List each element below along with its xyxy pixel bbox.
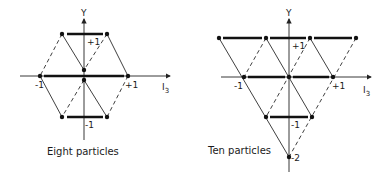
u-spin-line: [310, 38, 333, 77]
u-spin-line: [84, 80, 107, 117]
particle-point: [60, 115, 64, 119]
particle-point: [82, 78, 86, 82]
particle-point: [38, 74, 42, 78]
u-spin-line: [107, 34, 128, 76]
i3-plus-label: +1: [332, 81, 345, 91]
i3-plus-label: +1: [125, 80, 138, 90]
particle-point: [331, 75, 335, 79]
y-plus-label: +1: [87, 37, 100, 47]
u-spin-line: [219, 38, 289, 157]
weight-diagrams: Y +1 -1 -1 +1 I3 Eight particles: [0, 0, 391, 179]
y-axis-label: Y: [285, 8, 292, 18]
y-minus-label: -1: [291, 120, 300, 130]
decuplet-diagram: Y +1 -1 -2 -1 +1 I3 Ten particles: [207, 8, 371, 172]
particle-point: [287, 75, 291, 79]
v-spin-line: [40, 34, 62, 76]
v-spin-line: [62, 80, 84, 117]
particle-point: [105, 115, 109, 119]
y-plus-label: +1: [292, 41, 305, 51]
octet-diagram: Y +1 -1 -1 +1 I3 Eight particles: [20, 8, 170, 157]
i3-minus-label: -1: [35, 80, 44, 90]
octet-caption: Eight particles: [47, 146, 119, 157]
i3-axis-label: I3: [162, 82, 169, 95]
v-spin-line: [289, 38, 356, 157]
y-minus2-label: -2: [291, 153, 300, 163]
particle-point: [264, 36, 268, 40]
i3-axis-label: I3: [363, 85, 370, 98]
particle-point: [264, 115, 268, 119]
y-minus-label: -1: [85, 120, 94, 130]
particle-point: [60, 32, 64, 36]
particle-point: [354, 36, 358, 40]
decuplet-caption: Ten particles: [207, 145, 271, 156]
y-axis-label: Y: [80, 8, 87, 18]
particle-point: [126, 74, 130, 78]
particle-point: [82, 68, 86, 72]
v-spin-line: [244, 38, 266, 77]
particle-point: [242, 75, 246, 79]
particle-point: [217, 36, 221, 40]
i3-minus-label: -1: [234, 81, 243, 91]
particle-point: [310, 115, 314, 119]
particle-point: [308, 36, 312, 40]
particle-point: [105, 32, 109, 36]
u-spin-line: [62, 34, 84, 70]
